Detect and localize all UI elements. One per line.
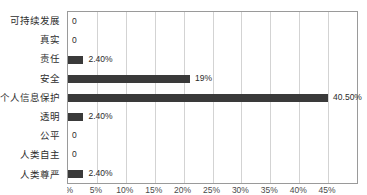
category-label-human-autonomy: 人类自主 xyxy=(20,150,60,160)
bar-responsibility[interactable] xyxy=(68,56,83,64)
bar-value-label: 0 xyxy=(72,131,77,140)
bar-safety[interactable] xyxy=(68,75,190,83)
bar-row: 0 xyxy=(68,126,357,145)
value-axis-tick-label: 30% xyxy=(232,186,249,195)
value-axis-tick-label: 45% xyxy=(319,186,336,195)
value-axis-tick-label: 25% xyxy=(203,186,220,195)
category-axis-row: 责任 xyxy=(0,49,64,68)
value-axis: 0%5%10%15%20%25%30%35%40%45% xyxy=(67,186,358,195)
category-axis-row: 透明 xyxy=(0,107,64,126)
category-label-sustainable-development: 可持续发展 xyxy=(10,16,60,26)
category-axis-row: 个人信息保护 xyxy=(0,88,64,107)
bar-row: 0 xyxy=(68,31,357,50)
category-axis: 可持续发展 真实 责任 安全 个人信息保护 透明 公平 人类自主 人类尊严 xyxy=(0,11,64,184)
plot-area: 0 0 2.40% 19% 40.50% 2.40% xyxy=(67,11,358,184)
bar-transparency[interactable] xyxy=(68,113,83,121)
value-axis-tick-label: 0% xyxy=(67,186,73,195)
bar-value-label: 0 xyxy=(72,17,77,26)
category-axis-row: 公平 xyxy=(0,126,64,145)
category-label-transparency: 透明 xyxy=(40,112,60,122)
category-label-human-dignity: 人类尊严 xyxy=(20,170,60,180)
bar-row: 2.40% xyxy=(68,107,357,126)
bar-chart: 可持续发展 真实 责任 安全 个人信息保护 透明 公平 人类自主 人类尊严 xyxy=(0,0,367,195)
bars-layer: 0 0 2.40% 19% 40.50% 2.40% xyxy=(68,12,357,183)
bar-value-label: 0 xyxy=(72,150,77,159)
category-label-responsibility: 责任 xyxy=(40,54,60,64)
bar-personal-information-protection[interactable] xyxy=(68,94,328,102)
category-label-safety: 安全 xyxy=(40,74,60,84)
bar-row: 19% xyxy=(68,69,357,88)
value-axis-tick-label: 35% xyxy=(261,186,278,195)
category-label-fairness: 公平 xyxy=(40,131,60,141)
value-axis-tick-label: 40% xyxy=(290,186,307,195)
value-axis-tick-label: 5% xyxy=(90,186,102,195)
bar-row: 2.40% xyxy=(68,50,357,69)
bar-row: 0 xyxy=(68,12,357,31)
value-axis-tick-label: 10% xyxy=(116,186,133,195)
bar-row: 2.40% xyxy=(68,164,357,183)
bar-value-label: 2.40% xyxy=(88,112,112,121)
category-axis-row: 人类自主 xyxy=(0,146,64,165)
bar-value-label: 2.40% xyxy=(88,169,112,178)
bar-human-dignity[interactable] xyxy=(68,170,83,178)
value-axis-tick-label: 15% xyxy=(145,186,162,195)
bar-value-label: 2.40% xyxy=(88,55,112,64)
bar-row: 40.50% xyxy=(68,88,357,107)
bar-value-label: 19% xyxy=(195,74,212,83)
value-axis-tick-label: 20% xyxy=(174,186,191,195)
bar-value-label: 0 xyxy=(72,36,77,45)
category-axis-row: 人类尊严 xyxy=(0,165,64,184)
bar-value-label: 40.50% xyxy=(333,93,362,102)
category-axis-row: 可持续发展 xyxy=(0,11,64,30)
category-axis-row: 安全 xyxy=(0,69,64,88)
category-axis-row: 真实 xyxy=(0,30,64,49)
category-label-authenticity: 真实 xyxy=(40,35,60,45)
category-label-personal-information-protection: 个人信息保护 xyxy=(0,93,60,103)
bar-row: 0 xyxy=(68,145,357,164)
